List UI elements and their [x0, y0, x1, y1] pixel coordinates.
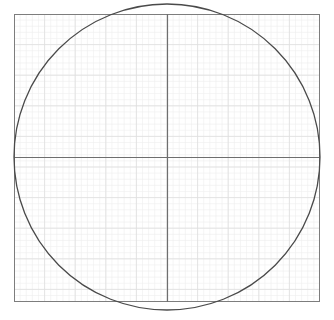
- circle-plot-svg: [0, 0, 334, 320]
- graph-paper-figure: [0, 0, 334, 320]
